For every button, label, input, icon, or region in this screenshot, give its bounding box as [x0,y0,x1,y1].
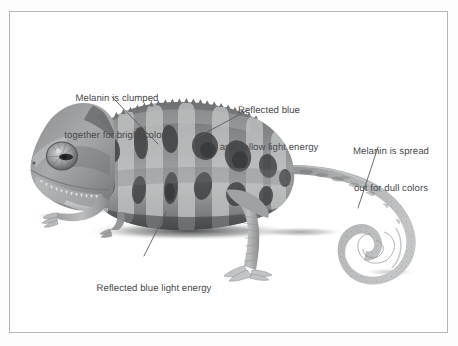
label-melanin-spread-line2: out for dull colors [330,183,452,195]
label-reflected-blue-yellow-line2: and yellow light energy [196,142,342,154]
label-melanin-clumped-line1: Melanin is clumped [44,93,190,105]
label-reflected-blue-yellow: Reflected blue and yellow light energy [196,80,342,179]
label-reflected-blue-line1: Reflected blue light energy [66,283,242,295]
label-melanin-spread: Melanin is spread out for dull colors [330,121,452,220]
label-reflected-blue: Reflected blue light energy [66,258,242,320]
label-melanin-clumped-line2: together for bright colors [44,130,190,142]
label-melanin-spread-line1: Melanin is spread [330,146,452,158]
figure-root: Melanin is clumped together for bright c… [0,0,458,346]
label-reflected-blue-yellow-line1: Reflected blue [196,105,342,117]
label-melanin-clumped: Melanin is clumped together for bright c… [44,68,190,167]
